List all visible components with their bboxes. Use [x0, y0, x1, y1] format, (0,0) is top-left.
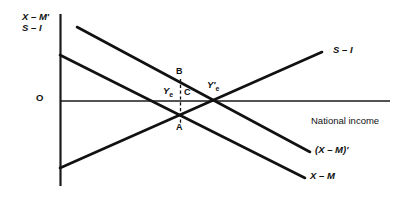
equilibrium-label-ye-prime-base: Y'	[207, 79, 216, 90]
equilibrium-label-ye: Ye	[163, 86, 173, 97]
y-axis-title-line1: X – M'	[22, 11, 49, 22]
curve-label-si: S – I	[333, 45, 353, 56]
x-axis-title: National income	[311, 116, 379, 127]
y-axis-title-line2: S – I	[22, 23, 49, 34]
curve-label-xm-prime: (X – M)'	[315, 145, 348, 156]
point-label-a: A	[176, 122, 183, 132]
point-label-b: B	[176, 66, 183, 76]
curve-si-line	[60, 52, 322, 168]
origin-label: O	[36, 93, 43, 104]
equilibrium-label-ye-prime: Y'e	[207, 80, 220, 91]
equilibrium-label-ye-sub: e	[169, 91, 173, 98]
curve-xm-prime-line	[77, 27, 310, 152]
y-axis-title: X – M' S – I	[22, 12, 49, 34]
equilibrium-label-ye-prime-sub: e	[216, 85, 220, 92]
diagram-canvas	[0, 0, 408, 203]
economics-diagram: X – M' S – I O National income S – I (X …	[0, 0, 408, 203]
curve-label-xm: X – M	[310, 171, 335, 182]
point-label-c: C	[184, 87, 191, 97]
